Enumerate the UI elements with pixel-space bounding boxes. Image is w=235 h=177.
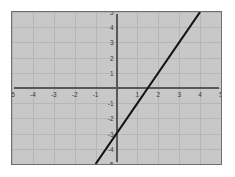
y-tick-label: -1 bbox=[108, 100, 114, 107]
x-tick-label: -4 bbox=[30, 91, 36, 98]
y-tick-label: -4 bbox=[108, 145, 114, 152]
y-tick-label: 5 bbox=[110, 11, 114, 16]
line-series-y-equals-2x-minus-3 bbox=[96, 12, 201, 164]
y-tick-label: -5 bbox=[108, 161, 114, 166]
x-tick-label: -5 bbox=[11, 91, 15, 98]
x-tick-label: -1 bbox=[93, 91, 99, 98]
y-tick-label: -3 bbox=[108, 130, 114, 137]
line-series-layer bbox=[12, 12, 221, 164]
x-tick-label: -2 bbox=[72, 91, 78, 98]
chart-page: -5-4-3-2-11234554321-1-2-3-4-5 bbox=[0, 0, 235, 177]
y-tick-label: -2 bbox=[108, 115, 114, 122]
x-tick-label: 2 bbox=[156, 91, 160, 98]
y-tick-label: 3 bbox=[110, 39, 114, 46]
x-tick-label: -3 bbox=[51, 91, 57, 98]
x-tick-label: 1 bbox=[136, 91, 140, 98]
y-tick-label: 2 bbox=[110, 54, 114, 61]
x-tick-label: 5 bbox=[219, 91, 222, 98]
gridline-horizontal bbox=[12, 164, 221, 165]
y-tick-label: 1 bbox=[110, 69, 114, 76]
x-tick-label: 3 bbox=[177, 91, 181, 98]
gridline-vertical bbox=[221, 12, 222, 164]
y-tick-label: 4 bbox=[110, 24, 114, 31]
x-tick-label: 4 bbox=[198, 91, 202, 98]
plot-frame: -5-4-3-2-11234554321-1-2-3-4-5 bbox=[11, 11, 222, 165]
